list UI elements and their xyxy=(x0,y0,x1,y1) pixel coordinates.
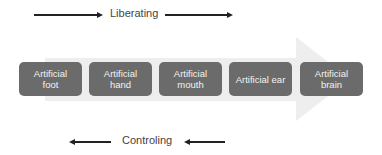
liberating-arrow-right-line xyxy=(165,14,227,16)
box-artificial-brain: Artificialbrain xyxy=(300,62,363,96)
box-label: Artificial ear xyxy=(236,74,286,85)
box-label: Artificialhand xyxy=(104,68,137,90)
box-label: Artificialbrain xyxy=(315,68,348,90)
box-label: Artificialmouth xyxy=(174,68,207,90)
box-artificial-mouth: Artificialmouth xyxy=(159,62,222,96)
liberating-arrow-left-line xyxy=(34,14,97,16)
box-artificial-foot: Artificialfoot xyxy=(19,62,82,96)
controling-label: Controling xyxy=(122,134,172,146)
controling-arrow-left-line xyxy=(75,141,111,143)
controling-arrow-right-line xyxy=(190,141,225,143)
arrow-right-icon xyxy=(97,12,103,18)
liberating-label: Liberating xyxy=(110,7,158,19)
arrow-right-icon xyxy=(227,12,233,18)
box-artificial-hand: Artificialhand xyxy=(89,62,152,96)
box-label: Artificialfoot xyxy=(34,68,67,90)
box-artificial-ear: Artificial ear xyxy=(229,62,292,96)
